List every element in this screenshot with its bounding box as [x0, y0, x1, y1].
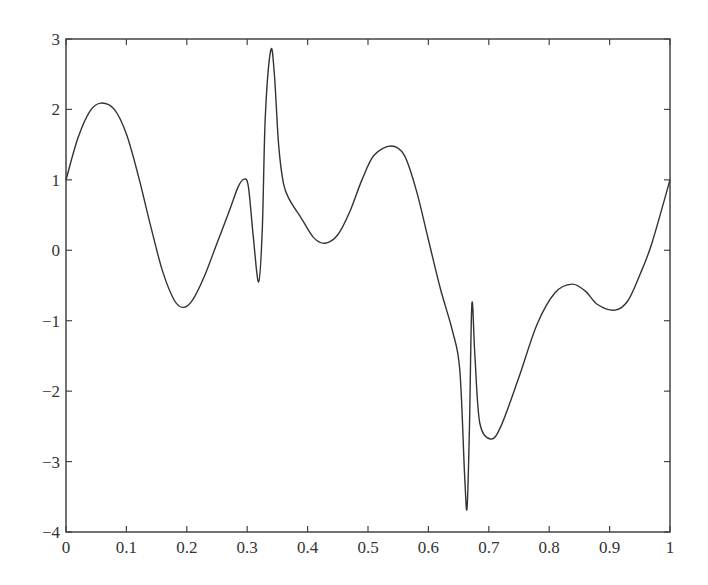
line-chart: 00.10.20.30.40.50.60.70.80.91 3210−1−2−3…: [0, 0, 708, 585]
x-tick-label: 0.5: [357, 538, 378, 557]
x-tick-label: 0.1: [116, 538, 137, 557]
y-tick-label: −1: [42, 312, 60, 331]
x-tick-label: 0.8: [539, 538, 560, 557]
y-tick-label: 2: [52, 100, 61, 119]
y-tick-label: −4: [42, 523, 61, 542]
x-tick-label: 0.6: [418, 538, 439, 557]
x-tick-label: 0.4: [297, 538, 319, 557]
y-tick-label: 0: [52, 241, 61, 260]
y-tick-label: 1: [52, 171, 61, 190]
x-tick-label: 0.3: [237, 538, 258, 557]
x-tick-label: 0.7: [478, 538, 500, 557]
x-tick-label: 0.2: [176, 538, 197, 557]
x-tick-label: 0.9: [599, 538, 620, 557]
x-tick-label: 0: [62, 538, 71, 557]
y-tick-label: 3: [52, 30, 61, 49]
y-tick-label: −3: [42, 453, 60, 472]
data-line: [66, 49, 670, 511]
x-axis: 00.10.20.30.40.50.60.70.80.91: [62, 39, 675, 557]
y-axis: 3210−1−2−3−4: [42, 30, 670, 542]
y-tick-label: −2: [42, 382, 60, 401]
plot-area-frame: [66, 39, 670, 532]
x-tick-label: 1: [666, 538, 675, 557]
